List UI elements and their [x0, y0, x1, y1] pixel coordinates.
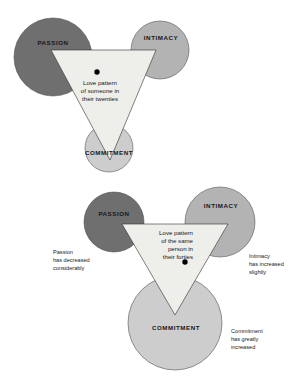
intimacy-note-forties: Intimacy has increased slightly: [249, 253, 284, 275]
commitment-note-forties: Commitment has greatly increased: [231, 328, 263, 350]
caption-line: Love pattern: [159, 229, 193, 236]
note-line: has increased: [249, 261, 284, 267]
note-line: Commitment: [231, 328, 263, 334]
caption-line: of the same: [161, 237, 193, 244]
note-line: slightly: [249, 269, 266, 275]
passion-label-forties: PASSION: [98, 210, 129, 217]
note-line: Passion: [53, 249, 73, 255]
note-line: Intimacy: [249, 253, 270, 259]
intimacy-label-forties: INTIMACY: [204, 202, 239, 209]
note-line: increased: [231, 344, 255, 350]
diagram-forties: PASSION INTIMACY COMMITMENT Love pattern…: [53, 187, 284, 370]
caption-line: Love pattern: [83, 79, 117, 86]
love-pattern-point-forties: [182, 259, 187, 264]
intimacy-label-twenties: INTIMACY: [144, 34, 179, 41]
diagram-twenties: PASSION INTIMACY COMMITMENT Love pattern…: [14, 18, 189, 172]
passion-label-twenties: PASSION: [37, 39, 68, 46]
note-line: has greatly: [231, 336, 259, 342]
figure-canvas: PASSION INTIMACY COMMITMENT Love pattern…: [0, 0, 301, 381]
love-triangle-figure: PASSION INTIMACY COMMITMENT Love pattern…: [0, 0, 301, 381]
passion-note-forties: Passion has decreased considerably: [53, 249, 90, 271]
caption-line: their forties: [163, 253, 193, 260]
commitment-label-forties: COMMITMENT: [152, 324, 200, 331]
note-line: has decreased: [53, 257, 90, 263]
note-line: considerably: [53, 265, 85, 271]
caption-line: person in: [168, 245, 193, 252]
caption-line: their twenties: [82, 95, 118, 102]
caption-line: of someone in: [81, 87, 119, 94]
love-pattern-point-twenties: [94, 69, 99, 74]
love-triangle-twenties: [51, 50, 156, 160]
commitment-label-twenties: COMMITMENT: [85, 149, 133, 156]
triangle-caption-twenties: Love pattern of someone in their twentie…: [81, 79, 119, 102]
